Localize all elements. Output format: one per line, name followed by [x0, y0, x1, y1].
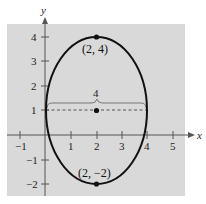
- x-tick-label: 3: [119, 140, 125, 152]
- y-tick-label: 1: [31, 104, 37, 116]
- y-tick-label: 2: [31, 80, 37, 92]
- x-tick-label: 4: [144, 140, 150, 152]
- x-tick-label: −1: [15, 140, 27, 152]
- x-axis-arrow-icon: [188, 132, 195, 138]
- y-tick-label: 3: [31, 55, 37, 67]
- x-tick-label: 2: [94, 140, 100, 152]
- y-tick-label: −1: [26, 154, 38, 166]
- x-tick-label: 1: [68, 140, 74, 152]
- y-tick-label: 4: [31, 31, 37, 43]
- y-tick-label: −2: [26, 178, 38, 190]
- ellipse-chart: x y −1 1 2 3 4 5 4 3 2 1 −1 −2 4 (2, 4) …: [0, 0, 206, 204]
- y-axis-arrow-icon: [42, 17, 48, 24]
- top-point-label: (2, 4): [82, 42, 108, 56]
- brace-label: 4: [93, 87, 99, 99]
- y-axis-label: y: [40, 4, 46, 16]
- x-axis-label: x: [196, 129, 202, 141]
- vertex-top-point: [94, 34, 99, 39]
- vertex-bottom-point: [94, 181, 99, 186]
- bottom-point-label: (2, −2): [78, 166, 111, 180]
- x-tick-label: 5: [170, 140, 176, 152]
- center-point: [94, 108, 99, 113]
